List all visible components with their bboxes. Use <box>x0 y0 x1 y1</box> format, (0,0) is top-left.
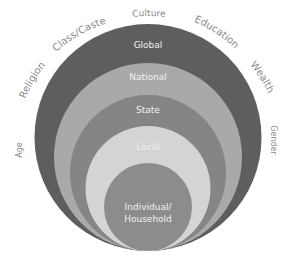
label-household: Household <box>124 214 172 224</box>
label-local: Local <box>136 142 159 152</box>
factor-age: Age <box>15 142 24 158</box>
nested-levels-diagram: Global National State Local Individual/ … <box>0 0 291 269</box>
factor-gender: Gender <box>269 125 278 155</box>
label-global: Global <box>134 40 163 50</box>
label-individual: Individual/ <box>125 202 173 212</box>
factor-religion: Religion <box>17 59 47 99</box>
label-state: State <box>136 105 160 115</box>
factor-culture: Culture <box>132 8 167 19</box>
factor-wealth: Wealth <box>249 59 277 95</box>
label-national: National <box>129 72 167 82</box>
